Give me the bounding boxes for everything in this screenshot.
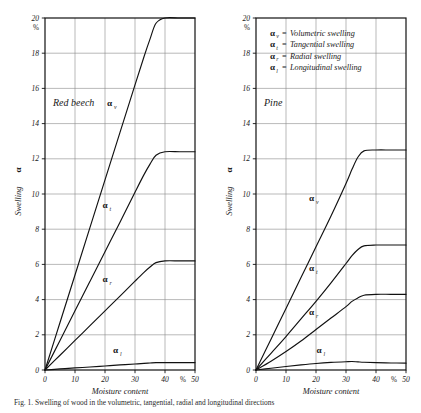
svg-text:Swelling: Swelling bbox=[14, 187, 23, 216]
x-axis-unit-label: % bbox=[180, 376, 186, 384]
y-axis-tick-label: 0 bbox=[246, 366, 250, 375]
y-axis-tick-label: 20 bbox=[31, 14, 39, 23]
x-axis-tick-label: 20 bbox=[312, 375, 320, 384]
y-axis-tick-label: 8 bbox=[35, 225, 39, 234]
y-axis-tick-label: 0 bbox=[35, 366, 39, 375]
legend-subscript: r bbox=[276, 56, 279, 62]
svg-text:r: r bbox=[316, 313, 319, 319]
x-axis-title: Moisture content bbox=[91, 387, 149, 396]
y-axis-tick-label: 4 bbox=[246, 295, 250, 304]
legend-symbol: α bbox=[270, 39, 275, 49]
curve-label-αl: αl bbox=[113, 345, 122, 357]
y-axis-tick-label: 6 bbox=[35, 260, 39, 269]
figure-root: 01020304050%02468101214161820%Moisture c… bbox=[0, 0, 421, 413]
curve-αl bbox=[256, 362, 406, 370]
curve-label-αl: αl bbox=[316, 345, 325, 357]
y-axis-tick-label: 20 bbox=[242, 14, 250, 23]
legend-symbol: α bbox=[270, 62, 275, 72]
svg-text:α: α bbox=[309, 307, 315, 317]
y-axis-unit-label: % bbox=[244, 24, 250, 32]
legend-subscript: t bbox=[276, 45, 278, 51]
curve-αl bbox=[45, 363, 195, 370]
y-axis-tick-label: 14 bbox=[242, 119, 250, 128]
svg-text:t: t bbox=[316, 269, 318, 275]
svg-text:t: t bbox=[109, 206, 111, 212]
x-axis-tick-label: 50 bbox=[191, 375, 199, 384]
svg-text:α: α bbox=[102, 274, 108, 284]
svg-text:α: α bbox=[309, 263, 315, 273]
svg-text:Swelling: Swelling bbox=[225, 187, 234, 216]
curve-αt bbox=[256, 245, 406, 370]
x-axis-tick-label: 0 bbox=[43, 375, 47, 384]
legend-text: Tangential swelling bbox=[290, 40, 354, 49]
y-axis-tick-label: 12 bbox=[31, 154, 39, 163]
legend-text: Volumetric swelling bbox=[290, 29, 355, 38]
svg-text:α: α bbox=[102, 200, 108, 210]
svg-text:α: α bbox=[316, 345, 322, 355]
y-axis-unit-label: % bbox=[33, 24, 39, 32]
legend-separator: = bbox=[282, 29, 287, 38]
y-axis-tick-label: 2 bbox=[246, 330, 250, 339]
legend-separator: = bbox=[282, 63, 287, 72]
svg-text:α: α bbox=[107, 98, 113, 108]
svg-text:l: l bbox=[323, 351, 325, 357]
x-axis-tick-label: 10 bbox=[71, 375, 79, 384]
y-axis-title: Swellingα bbox=[224, 168, 235, 216]
chart-panel-pine: 01020304050%02468101214161820%Moisture c… bbox=[211, 0, 421, 400]
y-axis-tick-label: 16 bbox=[242, 84, 250, 93]
y-axis-tick-label: 4 bbox=[35, 295, 39, 304]
x-axis-tick-label: 0 bbox=[254, 375, 258, 384]
x-axis-tick-label: 40 bbox=[161, 375, 169, 384]
y-axis-tick-label: 16 bbox=[31, 84, 39, 93]
svg-text:r: r bbox=[109, 280, 112, 286]
x-axis-tick-label: 30 bbox=[130, 375, 139, 384]
x-axis-title: Moisture content bbox=[302, 387, 360, 396]
x-axis-tick-label: 40 bbox=[372, 375, 380, 384]
legend-subscript: v bbox=[276, 33, 279, 39]
y-axis-tick-label: 6 bbox=[246, 260, 250, 269]
legend-text: Longitudinal swelling bbox=[289, 63, 362, 72]
legend-subscript: l bbox=[276, 68, 278, 74]
curve-label-αv: αv bbox=[107, 98, 117, 110]
svg-text:l: l bbox=[120, 351, 122, 357]
legend-symbol: α bbox=[270, 51, 275, 61]
y-axis-tick-label: 18 bbox=[31, 49, 39, 58]
y-axis-tick-label: 12 bbox=[242, 154, 250, 163]
svg-text:α: α bbox=[309, 193, 315, 203]
y-axis-tick-label: 2 bbox=[35, 330, 39, 339]
grid-lines bbox=[45, 18, 195, 370]
y-axis-symbol: α bbox=[224, 168, 234, 173]
x-axis-tick-label: 30 bbox=[341, 375, 350, 384]
svg-text:v: v bbox=[114, 104, 117, 110]
y-axis-tick-label: 14 bbox=[31, 119, 39, 128]
x-axis-tick-label: 10 bbox=[282, 375, 290, 384]
x-axis-tick-label: 20 bbox=[101, 375, 109, 384]
y-axis-tick-label: 18 bbox=[242, 49, 250, 58]
svg-text:α: α bbox=[113, 345, 119, 355]
curve-αr bbox=[256, 294, 406, 370]
y-axis-tick-label: 8 bbox=[246, 225, 250, 234]
svg-text:v: v bbox=[316, 199, 319, 205]
chart-panel-red-beech: 01020304050%02468101214161820%Moisture c… bbox=[0, 0, 210, 400]
curve-label-αr: αr bbox=[309, 307, 319, 319]
legend-separator: = bbox=[282, 52, 287, 61]
legend-symbol: α bbox=[270, 28, 275, 38]
red-beech-chart: 01020304050%02468101214161820%Moisture c… bbox=[0, 0, 210, 400]
x-axis-unit-label: % bbox=[391, 376, 397, 384]
legend-text: Radial swelling bbox=[289, 52, 341, 61]
species-label: Red beech bbox=[52, 97, 94, 108]
x-axis-tick-label: 50 bbox=[402, 375, 410, 384]
legend-separator: = bbox=[282, 40, 287, 49]
y-axis-tick-label: 10 bbox=[242, 190, 250, 199]
y-axis-title: Swellingα bbox=[13, 168, 24, 216]
y-axis-tick-label: 10 bbox=[31, 190, 39, 199]
tick-marks bbox=[42, 18, 195, 373]
curve-label-αv: αv bbox=[309, 193, 319, 205]
species-label: Pine bbox=[263, 97, 283, 108]
y-axis-symbol: α bbox=[13, 168, 23, 173]
curve-label-αt: αt bbox=[102, 200, 111, 212]
figure-caption: Fig. 1. Swelling of wood in the volumetr… bbox=[14, 398, 410, 413]
curve-label-αr: αr bbox=[102, 274, 112, 286]
curve-label-αt: αt bbox=[309, 263, 318, 275]
curve-αv bbox=[256, 150, 406, 370]
